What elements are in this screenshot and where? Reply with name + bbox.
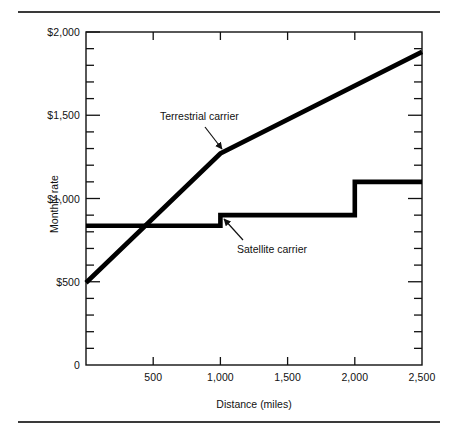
y-axis-title: Monthly rate: [48, 144, 60, 264]
ytick-label-2000: $2,000: [18, 26, 80, 38]
xtick-label-500: 500: [144, 371, 162, 383]
y-axis-ticks: [86, 32, 100, 348]
plot-frame: [86, 32, 422, 365]
xtick-label-1500: 1,500: [274, 371, 301, 383]
terrestrial-annotation-arrow: [205, 127, 222, 149]
satellite-carrier-label: Satellite carrier: [237, 243, 307, 255]
right-spine-ticks: [408, 49, 422, 349]
terrestrial-carrier-label: Terrestrial carrier: [160, 110, 239, 122]
top-spine-ticks: [153, 32, 355, 40]
ytick-label-500: $500: [18, 276, 80, 288]
xtick-label-2500: 2,500: [409, 371, 436, 383]
satellite-annotation-arrow: [224, 219, 243, 240]
x-axis-ticks: [153, 357, 355, 365]
chart-figure: $2,000 $1,500 $1,000 $500 0 500 1,000 1,…: [0, 0, 459, 439]
xtick-label-2000: 2,000: [341, 371, 368, 383]
xtick-label-1000: 1,000: [207, 371, 234, 383]
ytick-label-0: 0: [18, 359, 80, 371]
x-axis-title: Distance (miles): [86, 398, 422, 410]
series-satellite-carrier: [86, 182, 422, 226]
ytick-label-1500: $1,500: [18, 109, 80, 121]
